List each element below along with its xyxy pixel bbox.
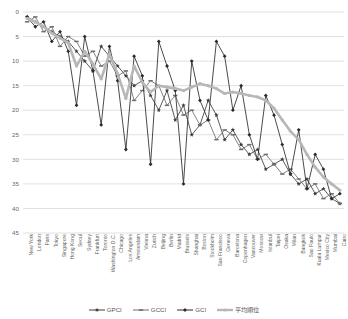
legend-item-GPCI[interactable]: GPCI — [89, 306, 122, 313]
data-point — [190, 59, 194, 63]
data-point — [83, 50, 86, 53]
legend-swatch-icon — [217, 306, 233, 313]
data-point — [83, 35, 87, 39]
data-point — [157, 108, 161, 112]
data-point — [247, 133, 251, 137]
y-tick-label: 5 — [16, 33, 20, 40]
data-point — [338, 192, 342, 196]
legend-item-平均順位[interactable]: 平均順位 — [217, 305, 259, 314]
series-GCI — [25, 15, 342, 201]
y-tick-label: 0 — [16, 8, 20, 15]
data-point — [240, 92, 243, 95]
legend-label: GPCI — [107, 306, 122, 313]
data-point — [198, 82, 201, 85]
data-point — [305, 153, 308, 156]
x-tick-label: Zurich — [152, 234, 157, 248]
data-point — [108, 53, 111, 56]
x-tick-label: Paris — [45, 234, 50, 246]
x-tick-label: Beijing — [161, 234, 166, 249]
x-tick-label: Toronto — [103, 234, 108, 251]
data-point — [149, 162, 153, 166]
x-tick-label: San Francisco — [218, 234, 223, 267]
x-tick-label: Chicago — [119, 234, 124, 253]
x-tick-label: Taipei — [276, 234, 281, 247]
x-tick-label: Hong Kong — [70, 234, 75, 260]
data-point — [231, 108, 235, 112]
data-point — [133, 64, 136, 67]
y-tick-label: 25 — [12, 131, 19, 138]
data-point — [297, 138, 300, 141]
data-point — [157, 40, 161, 44]
data-point — [313, 191, 317, 195]
data-point — [198, 99, 202, 103]
x-tick-label: New York — [29, 234, 34, 256]
data-point — [149, 90, 152, 93]
series-line — [27, 17, 340, 199]
rank-comparison-chart: 051015202530354045 New YorkLondonParisTo… — [0, 0, 348, 319]
y-tick-label: 10 — [12, 57, 19, 64]
data-point — [280, 143, 284, 147]
x-tick-label: Boston — [202, 234, 207, 250]
x-tick-label: Copenhagen — [243, 234, 248, 263]
x-tick-label: Madrid — [177, 234, 182, 250]
data-point — [322, 167, 326, 171]
data-point — [165, 86, 168, 89]
x-tick-label: London — [37, 234, 42, 251]
data-point — [289, 130, 292, 133]
data-point — [174, 87, 177, 90]
data-point — [132, 54, 136, 58]
data-point — [272, 107, 275, 110]
x-tick-label: Stockholm — [210, 234, 215, 258]
data-point — [248, 94, 251, 97]
data-point — [224, 308, 227, 311]
chart-svg: 051015202530354045 — [0, 0, 348, 236]
data-point — [322, 175, 325, 178]
data-point — [314, 166, 317, 169]
data-point — [338, 189, 341, 192]
data-point — [215, 40, 219, 44]
x-tick-label: Vancouver — [251, 234, 256, 258]
legend-item-GCCI[interactable]: GCCI — [133, 306, 166, 313]
x-tick-label: Istanbul — [268, 234, 273, 252]
data-point — [264, 94, 268, 98]
chart-legend: GPCIGCCIGCI平均順位 — [0, 299, 348, 319]
data-point — [330, 182, 333, 185]
data-point — [108, 44, 112, 48]
data-point — [165, 64, 169, 68]
data-point — [206, 118, 210, 122]
data-point — [256, 157, 260, 161]
data-point — [141, 81, 144, 84]
plot-area: 051015202530354045 — [0, 0, 348, 236]
x-tick-label: Sydney — [87, 234, 92, 251]
data-point — [100, 77, 103, 80]
x-tick-label: Shanghai — [194, 234, 199, 256]
data-point — [42, 20, 46, 24]
legend-swatch-icon — [177, 306, 193, 313]
data-point — [223, 92, 226, 95]
data-point — [190, 86, 193, 89]
y-tick-label: 40 — [12, 205, 19, 212]
x-tick-label: Geneva — [226, 234, 231, 252]
x-tick-label: Osaka — [284, 234, 289, 249]
x-tick-label: Barcelona — [235, 234, 240, 257]
legend-item-GCI[interactable]: GCI — [177, 306, 206, 313]
y-tick-label: 35 — [12, 180, 19, 187]
data-point — [183, 308, 187, 312]
x-tick-label: Mexico City — [325, 234, 330, 260]
data-point — [148, 93, 152, 97]
data-point — [182, 89, 185, 92]
y-axis-tick-labels: 051015202530354045 — [12, 8, 19, 236]
x-tick-label: Brussels — [185, 234, 190, 254]
legend-label: GCCI — [151, 306, 166, 313]
data-point — [256, 95, 259, 98]
data-point — [223, 54, 227, 58]
x-tick-label: Frankfurt — [95, 234, 100, 254]
data-point — [67, 41, 70, 44]
y-tick-label: 15 — [12, 82, 19, 89]
x-tick-label: Los Angeles — [128, 234, 133, 262]
data-point — [264, 99, 267, 102]
x-tick-label: Bangkok — [301, 234, 306, 254]
x-tick-label: Seoul — [78, 234, 83, 247]
data-point — [124, 148, 128, 152]
data-point — [207, 84, 210, 87]
